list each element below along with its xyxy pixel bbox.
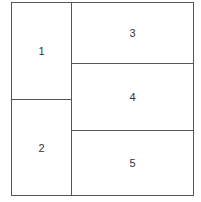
- cell-4: 4: [72, 64, 193, 130]
- cell-3: 3: [72, 3, 193, 63]
- cell-3-label: 3: [129, 27, 135, 39]
- cell-4-label: 4: [129, 91, 135, 103]
- cell-2-label: 2: [38, 142, 44, 154]
- cell-1-label: 1: [38, 45, 44, 57]
- cell-2: 2: [12, 100, 71, 195]
- cell-5-label: 5: [129, 157, 135, 169]
- cell-1: 1: [12, 3, 71, 99]
- cell-5: 5: [72, 131, 193, 195]
- layout-frame: 1 2 3 4 5: [11, 2, 194, 196]
